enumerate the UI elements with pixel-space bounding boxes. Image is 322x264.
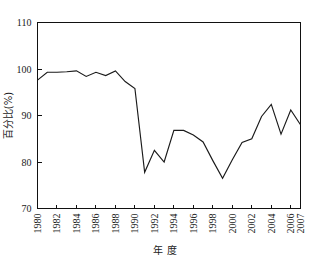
x-tick-label: 1994 [168, 214, 179, 234]
y-tick-label: 100 [17, 64, 32, 75]
y-tick-label: 70 [22, 203, 32, 214]
y-tick-label: 80 [22, 157, 32, 168]
x-tick-label: 2000 [227, 214, 238, 234]
data-series [38, 71, 301, 178]
y-tick-label: 110 [17, 17, 32, 28]
x-axis-title: 年 度 [153, 244, 176, 256]
x-tick-label: 2004 [266, 214, 277, 234]
plot-border [38, 23, 301, 209]
plot-frame [38, 23, 301, 209]
x-tick-label: 1988 [110, 214, 121, 234]
line-chart: 708090100110 198019821984198619881990199… [0, 0, 322, 264]
series-line-percentage [38, 71, 301, 178]
x-tick-label: 1992 [149, 214, 160, 234]
y-tick-label: 90 [22, 110, 32, 121]
x-tick-label: 2002 [246, 214, 257, 234]
chart-container: 708090100110 198019821984198619881990199… [0, 0, 322, 264]
y-axis-title: 百分比(%) [3, 92, 14, 139]
x-tick-label: 1996 [188, 214, 199, 234]
x-tick-label: 1984 [71, 214, 82, 234]
x-tick-label: 1990 [129, 214, 140, 234]
x-tick-label: 1982 [51, 214, 62, 234]
x-tick-label: 2007 [295, 214, 306, 234]
x-tick-label: 1986 [90, 214, 101, 234]
x-tick-label: 1998 [207, 214, 218, 234]
x-tick-label: 1980 [32, 214, 43, 234]
